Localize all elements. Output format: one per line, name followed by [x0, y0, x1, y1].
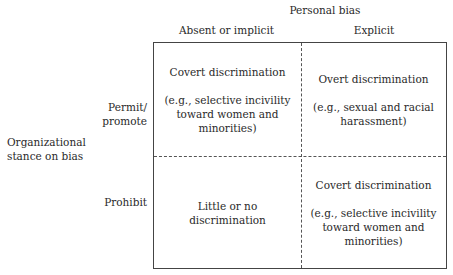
cell-heading-line: discrimination: [189, 213, 266, 227]
row-label-prohibit: Prohibit: [90, 196, 147, 208]
cell-heading: Covert discrimination: [170, 65, 286, 79]
row-label-permit-promote: Permit/ promote: [90, 100, 147, 128]
cell-example-line: toward women and: [176, 107, 278, 121]
cell-heading: Covert discrimination: [316, 178, 432, 192]
cell-example-line: (e.g., selective incivility: [310, 206, 436, 220]
cell-prohibit-absent: Little or no discrimination: [154, 157, 301, 268]
matrix-grid: Covert discrimination (e.g., selective i…: [153, 42, 447, 269]
column-header-absent-implicit: Absent or implicit: [153, 24, 300, 36]
cell-example-line: minorities): [344, 234, 402, 248]
cell-prohibit-explicit: Covert discrimination (e.g., selective i…: [301, 157, 446, 268]
cell-example-line: minorities): [198, 121, 256, 135]
cell-example-line: toward women and: [322, 220, 424, 234]
cell-example-line: harassment): [340, 114, 406, 128]
cell-permit-explicit: Overt discrimination (e.g., sexual and r…: [301, 43, 446, 156]
cell-permit-absent: Covert discrimination (e.g., selective i…: [154, 43, 301, 156]
personal-bias-title: Personal bias: [270, 4, 380, 16]
column-header-explicit: Explicit: [301, 24, 447, 36]
row-axis-label-line: stance on bias: [7, 149, 86, 163]
row-axis-label-line: Organizational: [7, 135, 86, 149]
cell-heading-line: Little or no: [198, 199, 257, 213]
row-axis-label: Organizational stance on bias: [7, 135, 86, 163]
row-label-line: Permit/: [90, 100, 147, 114]
cell-heading: Overt discrimination: [318, 72, 428, 86]
cell-example-line: (e.g., sexual and racial: [313, 100, 434, 114]
row-label-line: promote: [90, 114, 147, 128]
cell-example-line: (e.g., selective incivility: [164, 93, 290, 107]
